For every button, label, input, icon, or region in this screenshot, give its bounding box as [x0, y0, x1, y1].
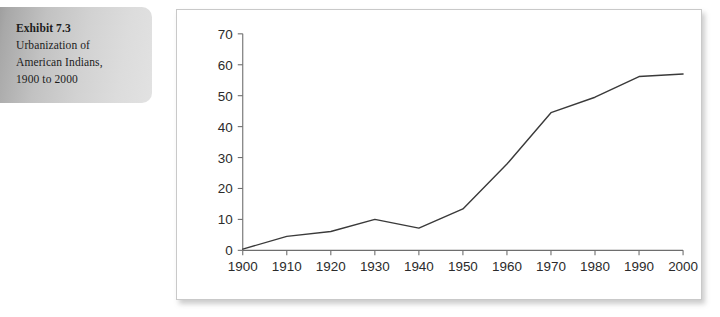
- y-tick-label: 10: [218, 212, 233, 227]
- y-tick-label: 40: [218, 120, 233, 135]
- y-tick-label: 50: [218, 89, 233, 104]
- y-tick-label: 30: [218, 151, 233, 166]
- x-tick-label: 1930: [360, 259, 390, 274]
- x-tick-label: 1960: [492, 259, 522, 274]
- x-tick-label: 1910: [272, 259, 302, 274]
- y-tick-label: 0: [225, 243, 232, 258]
- x-tick-label: 1990: [624, 259, 654, 274]
- y-axis-tick-labels: 010203040506070: [218, 27, 233, 258]
- x-tick-label: 1980: [580, 259, 610, 274]
- exhibit-caption-line-1: Urbanization of: [16, 37, 142, 54]
- exhibit-caption-line-3: 1900 to 2000: [16, 71, 142, 88]
- x-tick-label: 1940: [404, 259, 434, 274]
- x-tick-label: 1970: [536, 259, 566, 274]
- chart-panel: 010203040506070 190019101920193019401950…: [176, 9, 702, 300]
- exhibit-caption-title: Exhibit 7.3: [16, 20, 142, 37]
- y-tick-label: 70: [218, 27, 233, 42]
- exhibit-caption-line-2: American Indians,: [16, 54, 142, 71]
- x-tick-label: 2000: [668, 259, 698, 274]
- x-axis-tick-marks: [243, 250, 683, 255]
- y-tick-label: 20: [218, 181, 233, 196]
- line-chart: 010203040506070 190019101920193019401950…: [177, 10, 701, 299]
- x-tick-label: 1900: [228, 259, 258, 274]
- y-tick-label: 60: [218, 58, 233, 73]
- exhibit-caption-box: Exhibit 7.3 Urbanization of American Ind…: [0, 7, 152, 103]
- y-axis-tick-marks: [238, 34, 243, 251]
- x-tick-label: 1920: [316, 259, 346, 274]
- x-axis-tick-labels: 1900191019201930194019501960197019801990…: [228, 259, 698, 274]
- x-tick-label: 1950: [448, 259, 478, 274]
- data-series-line: [243, 74, 683, 249]
